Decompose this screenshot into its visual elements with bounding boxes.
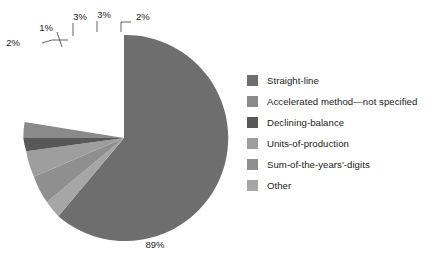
legend-swatch-icon [247, 117, 258, 128]
legend-item-label: Other [267, 180, 291, 191]
legend-swatch-icon [247, 180, 258, 191]
pct-label-sum-years: 3% [97, 9, 111, 20]
legend-swatch-icon [247, 159, 258, 170]
legend-swatch-icon [247, 96, 258, 107]
legend-item-label: Straight-line [267, 75, 319, 86]
legend-item-label: Units-of-production [267, 138, 349, 149]
pct-label-units-production: 3% [73, 11, 87, 22]
legend-swatch-icon [247, 75, 258, 86]
legend-item-label: Accelerated method—not specified [267, 96, 417, 107]
legend-item-sum-of-the-years-digits: Sum-of-the-years'-digits [247, 154, 443, 175]
legend: Straight-line Accelerated method—not spe… [247, 70, 443, 196]
pie-slice-accelerated-method [23, 122, 124, 138]
legend-item-label: Declining-balance [267, 117, 344, 128]
pct-label-other: 2% [136, 11, 150, 22]
legend-item-declining-balance: Declining-balance [247, 112, 443, 133]
leader-line-declining-balance [57, 32, 62, 47]
legend-swatch-icon [247, 138, 258, 149]
pie-chart: 2% 1% 3% 3% 2% 89% Straight-line Acceler… [0, 0, 446, 257]
pct-label-straight-line: 89% [145, 239, 165, 250]
legend-item-other: Other [247, 175, 443, 196]
legend-item-accelerated-method: Accelerated method—not specified [247, 91, 443, 112]
legend-item-units-of-production: Units-of-production [247, 133, 443, 154]
leader-line-other [121, 22, 131, 32]
pct-label-declining-balance: 1% [39, 22, 53, 33]
legend-item-label: Sum-of-the-years'-digits [267, 159, 370, 170]
leader-line-accelerated [42, 40, 68, 43]
legend-item-straight-line: Straight-line [247, 70, 443, 91]
pct-label-accelerated: 2% [6, 37, 20, 48]
